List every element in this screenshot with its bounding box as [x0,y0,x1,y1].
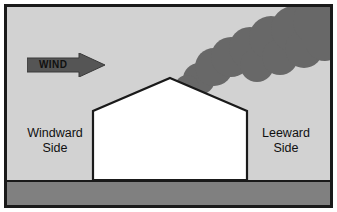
windward-label-line1: Windward [13,126,97,141]
windward-side-label: Windward Side [13,126,97,156]
diagram-canvas: WIND Windward Side Leeward Side [0,0,337,212]
diagram-frame: WIND Windward Side Leeward Side [4,4,333,208]
leeward-label-line2: Side [245,141,327,156]
leeward-side-label: Leeward Side [245,126,327,156]
leeward-label-line1: Leeward [245,126,327,141]
house [7,7,330,205]
diagram-scene: WIND Windward Side Leeward Side [7,7,330,205]
house-body-and-roof [93,78,247,180]
windward-label-line2: Side [13,141,97,156]
wind-label: WIND [39,58,67,72]
